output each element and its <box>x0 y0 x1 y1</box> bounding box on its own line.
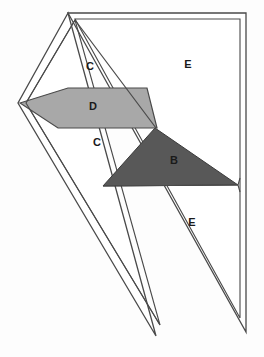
diagram-canvas: C D C B E E <box>0 0 264 357</box>
label-region-c-upper: C <box>86 60 94 72</box>
label-region-c-lower: C <box>93 136 101 148</box>
label-region-e-lower: E <box>188 216 195 228</box>
label-region-d: D <box>89 100 97 112</box>
label-region-b: B <box>170 154 178 166</box>
folded-paper-figure: C D C B E E <box>0 0 264 357</box>
label-region-e-upper: E <box>184 58 191 70</box>
